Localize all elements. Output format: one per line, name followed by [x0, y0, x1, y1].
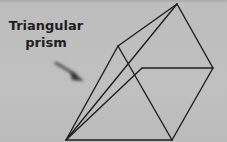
diagram-canvas: Triangular prism	[0, 0, 227, 142]
pointer-arrow-icon	[56, 63, 84, 81]
triangular-prism-figure	[0, 0, 227, 142]
prism-edges	[66, 4, 213, 140]
